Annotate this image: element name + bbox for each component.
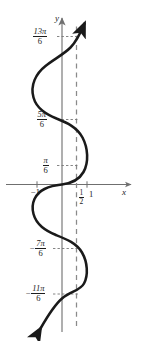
x-tick-denominator-half: 2 [79,198,84,206]
tick-connectors [53,37,79,295]
y-tick-denominator-pi: 6 [43,166,49,175]
x-tick-label-one-half: 1 2 [79,188,84,205]
y-tick-sign-minus11pi: − [26,289,31,298]
y-tick-label-5pi-over-6: 5π 6 [36,110,47,129]
y-tick-label-minus-11pi-over-6: − 11π 6 [26,284,45,303]
y-tick-label-minus-7pi-over-6: − 7π 6 [30,239,46,258]
y-axis-label: y [55,14,59,23]
y-tick-denominator-11pi: 6 [31,294,45,303]
y-tick-denominator-13pi: 6 [33,37,48,46]
x-tick-label-1: 1 [89,190,93,199]
y-tick-label-pi-over-6: π 6 [42,156,49,175]
y-tick-label-13pi-over-6: 13π 6 [32,27,47,46]
y-tick-denominator-5pi: 6 [37,120,48,129]
x-axis-label: x [122,188,126,197]
y-tick-sign-minus7pi: − [30,244,35,253]
graph-canvas [0,0,144,341]
math-graph-figure [0,0,144,341]
y-tick-denominator-7pi: 6 [35,249,46,258]
x-tick-label-minus-1: −1 [31,188,40,197]
